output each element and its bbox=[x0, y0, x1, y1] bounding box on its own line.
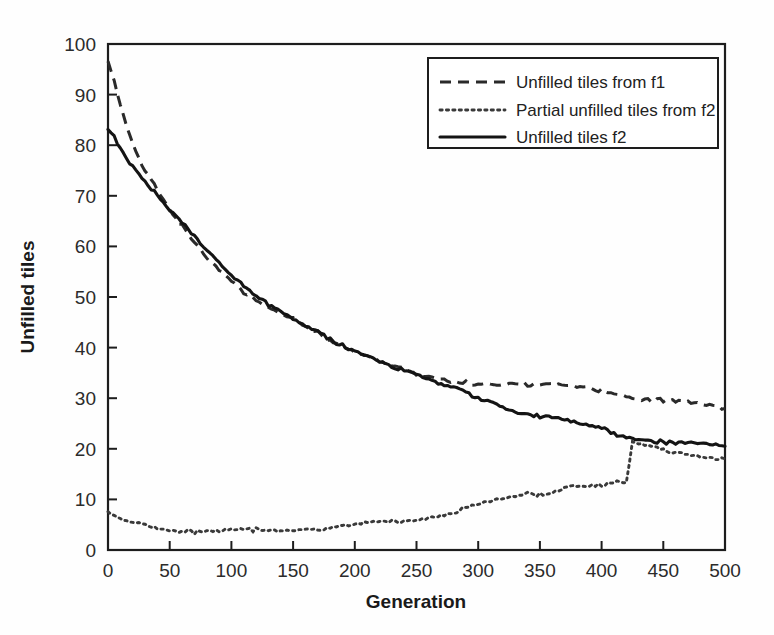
x-tick-label: 450 bbox=[647, 560, 679, 581]
y-tick-label: 50 bbox=[75, 287, 96, 308]
y-tick-label: 20 bbox=[75, 439, 96, 460]
y-tick-label: 90 bbox=[75, 85, 96, 106]
legend-label: Unfilled tiles from f1 bbox=[516, 73, 665, 92]
x-tick-label: 50 bbox=[159, 560, 180, 581]
y-tick-label: 70 bbox=[75, 186, 96, 207]
y-tick-label: 100 bbox=[64, 34, 96, 55]
y-axis-title: Unfilled tiles bbox=[17, 241, 38, 354]
y-tick-label: 10 bbox=[75, 489, 96, 510]
x-tick-label: 350 bbox=[524, 560, 556, 581]
chart-legend: Unfilled tiles from f1Partial unfilled t… bbox=[428, 58, 718, 148]
y-tick-label: 0 bbox=[85, 540, 96, 561]
x-tick-label: 150 bbox=[277, 560, 309, 581]
x-tick-label: 400 bbox=[586, 560, 618, 581]
y-tick-label: 80 bbox=[75, 135, 96, 156]
x-tick-label: 300 bbox=[462, 560, 494, 581]
y-tick-label: 40 bbox=[75, 338, 96, 359]
x-tick-label: 500 bbox=[709, 560, 741, 581]
legend-label: Partial unfilled tiles from f2 bbox=[516, 101, 715, 120]
x-axis-title: Generation bbox=[366, 591, 466, 612]
x-tick-label: 250 bbox=[401, 560, 433, 581]
x-tick-label: 100 bbox=[216, 560, 248, 581]
y-tick-label: 60 bbox=[75, 236, 96, 257]
legend-label: Unfilled tiles f2 bbox=[516, 128, 627, 147]
y-tick-label: 30 bbox=[75, 388, 96, 409]
x-tick-label: 0 bbox=[103, 560, 114, 581]
chart-page: 0102030405060708090100 05010015020025030… bbox=[0, 0, 774, 635]
x-tick-label: 200 bbox=[339, 560, 371, 581]
line-chart: 0102030405060708090100 05010015020025030… bbox=[0, 0, 774, 635]
